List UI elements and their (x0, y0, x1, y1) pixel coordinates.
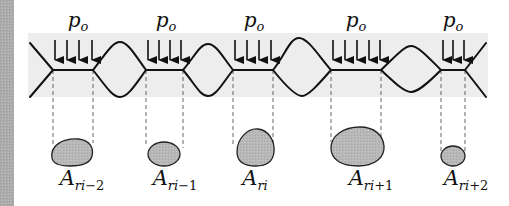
contact-area-blob (441, 146, 465, 166)
contact-area-blob (237, 129, 274, 166)
area-label: Ari−2 (60, 166, 105, 193)
area-label: Ari (242, 166, 268, 193)
area-label: Ari+1 (349, 166, 394, 193)
left-strip (0, 0, 14, 206)
contact-diagram: po po po po po Ari−2 Ari−1 Ari Ari+1 Ari… (0, 0, 509, 206)
pressure-label: po (346, 8, 367, 34)
contact-area-blob (52, 139, 93, 166)
pressure-label: po (68, 8, 89, 34)
pressure-label: po (244, 8, 265, 34)
pressure-label: po (443, 8, 464, 34)
area-label: Ari−1 (153, 166, 198, 193)
contact-area-blob (331, 127, 384, 166)
pressure-label: po (156, 8, 177, 34)
contact-area-blob (148, 142, 180, 166)
contact-areas (52, 127, 465, 166)
area-label: Ari+2 (444, 166, 489, 193)
